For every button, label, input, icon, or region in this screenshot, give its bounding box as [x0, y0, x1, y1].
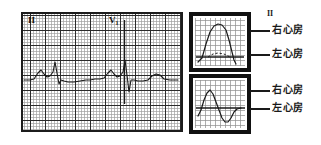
- annotation-bottom-right-atrium: 右心房: [272, 85, 304, 95]
- lead-label-ii: II: [28, 15, 36, 25]
- p-wave-inset-biphasic: [191, 76, 249, 132]
- annotation-bottom-left-atrium: 左心房: [272, 103, 304, 113]
- ecg-grid-paper: [22, 13, 182, 131]
- ecg-figure: II V1: [0, 0, 321, 145]
- annotation-top-left-atrium: 左心房: [272, 49, 304, 59]
- p-wave-inset-right-atrial: [191, 14, 249, 70]
- main-ecg-strip: II V1: [22, 13, 182, 131]
- annotation-top-right-atrium: 右心房: [272, 25, 304, 35]
- inset-panel-label-ii: II: [267, 10, 273, 18]
- inset-top-grid: [195, 18, 245, 66]
